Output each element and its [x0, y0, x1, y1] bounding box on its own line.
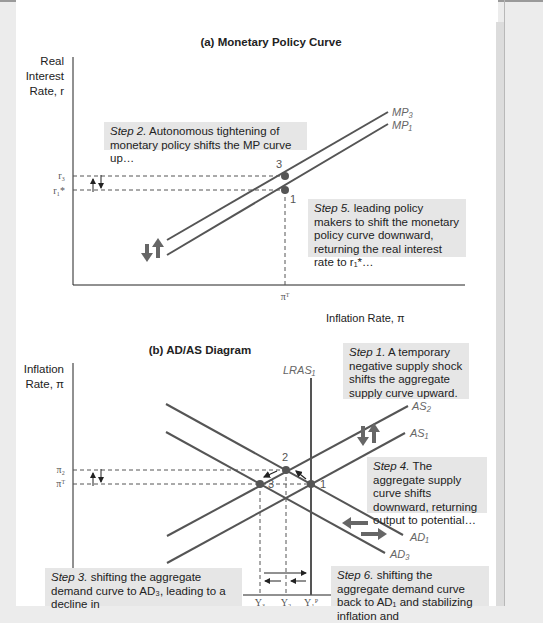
- callout-step6-step: Step 6.: [337, 569, 373, 581]
- tick-pi-target-a: πᵀ: [281, 291, 290, 302]
- callout-step1: Step 1. A temporary negative supply shoc…: [343, 343, 469, 399]
- as1-label: AS₁: [409, 427, 429, 439]
- tick-pi-target-b: πᵀ: [56, 478, 65, 489]
- callout-step3-step: Step 3.: [51, 571, 87, 583]
- point-2-b: [282, 466, 290, 474]
- callout-step5: Step 5. leading policy makers to shift t…: [308, 199, 466, 257]
- point-3-b-label: 3: [268, 478, 274, 490]
- point-1-b: [307, 480, 315, 488]
- ad-left-thick-arrow-icon: [342, 517, 368, 529]
- panel-b-ylabel-2: Rate, π: [25, 378, 64, 390]
- ad1-label: AD₁: [409, 531, 429, 543]
- callout-step4-step: Step 4.: [373, 460, 409, 472]
- callout-step5-step: Step 5.: [314, 202, 350, 214]
- callout-step3: Step 3. shifting the aggregate demand cu…: [45, 568, 242, 606]
- inflation-rate-xlabel: Inflation Rate, π: [326, 312, 405, 324]
- panel-a-title: (a) Monetary Policy Curve: [200, 36, 341, 48]
- callout-step1-step: Step 1.: [349, 346, 385, 358]
- point-3-b: [256, 480, 264, 488]
- point-1-a: [281, 186, 289, 194]
- ad3-label: AD₃: [389, 548, 410, 560]
- point-3-a: [281, 172, 289, 180]
- as2-label: AS₂: [411, 400, 432, 412]
- tick-r1: r₁*: [53, 185, 65, 196]
- point-1-a-label: 1: [290, 193, 296, 205]
- ad-right-thick-arrow-icon: [361, 528, 387, 540]
- panel-b-ylabel-1: Inflation: [24, 363, 64, 375]
- mp3-label: MP₃: [392, 106, 414, 118]
- tick-y3: Y₃: [255, 597, 266, 606]
- tick-r3: r₃: [58, 170, 65, 181]
- panel-b-title: (b) AD/AS Diagram: [149, 344, 251, 356]
- mp1-label: MP₁: [392, 119, 413, 131]
- arrow-2-to-3-icon: [264, 471, 277, 477]
- callout-step6: Step 6. shifting the aggregate demand cu…: [331, 566, 489, 606]
- panel-a-ylabel-3: Rate, r: [29, 85, 64, 97]
- tick-yp: Y₁ᴾ: [304, 597, 319, 606]
- panel-a-ylabel-1: Real: [40, 55, 64, 67]
- tick-pi2: π₂: [56, 464, 65, 475]
- up-thick-arrow-icon: [152, 238, 164, 258]
- ad3-curve: [166, 432, 385, 553]
- callout-step2: Step 2. Autonomous tightening of monetar…: [104, 122, 307, 150]
- callout-step2-step: Step 2.: [110, 125, 146, 137]
- down-thick-arrow-icon: [141, 244, 153, 262]
- point-3-a-label: 3: [276, 158, 282, 170]
- tick-y2: Y₂: [281, 597, 292, 606]
- point-2-b-label: 2: [282, 451, 288, 463]
- point-1-b-label: 1: [320, 478, 326, 490]
- lras-label: LRAS₁: [283, 364, 316, 376]
- panel-a-ylabel-2: Interest: [26, 70, 65, 82]
- callout-step4: Step 4. The aggregate supply curve shift…: [367, 457, 487, 513]
